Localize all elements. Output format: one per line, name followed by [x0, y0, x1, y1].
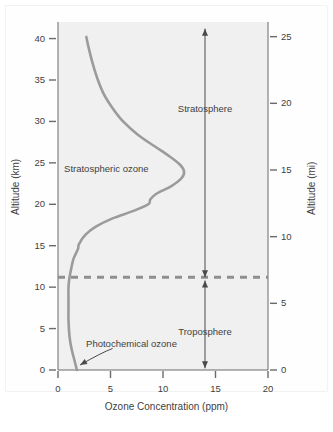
pointer-arrow-group [80, 348, 113, 365]
left-tick-label: 5 [0, 324, 45, 334]
photochemical-ozone-label: Photochemical ozone [86, 340, 177, 350]
bottom-tick-label: 20 [263, 384, 274, 394]
stratosphere-extent-arrow-head [202, 29, 208, 36]
right-tick-label: 20 [281, 99, 292, 109]
stratosphere-label: Stratosphere [178, 104, 232, 114]
bottom-tick-label: 0 [55, 384, 60, 394]
x-axis-title: Ozone Concentration (ppm) [0, 402, 333, 412]
left-axis-title: Altitude (km) [11, 175, 21, 215]
left-tick-label: 30 [0, 117, 45, 127]
ozone-profile-figure: 0510152025303540051015202505101520 Strat… [0, 0, 333, 432]
right-tick-label: 5 [281, 299, 286, 309]
left-tick-label: 10 [0, 282, 45, 292]
bottom-tick-label: 10 [158, 384, 169, 394]
right-tick-label: 0 [281, 365, 286, 375]
troposphere-extent-arrow-head [202, 361, 208, 368]
left-tick-label: 20 [0, 200, 45, 210]
photochemical-ozone-pointer-head [80, 359, 87, 365]
left-axis-ticks [49, 39, 56, 370]
troposphere-label: Troposphere [178, 327, 232, 337]
left-tick-label: 35 [0, 75, 45, 85]
right-tick-label: 15 [281, 165, 292, 175]
left-tick-label: 25 [0, 158, 45, 168]
right-axis-title: Altitude (mi) [307, 175, 317, 215]
layer-extent-arrows [202, 29, 208, 369]
troposphere-extent-arrow-head [202, 281, 208, 288]
bottom-tick-label: 15 [210, 384, 221, 394]
stratospheric-ozone-label: Stratospheric ozone [64, 165, 149, 175]
right-tick-label: 25 [281, 32, 292, 42]
ozone-concentration-curve [68, 37, 184, 370]
right-tick-label: 10 [281, 232, 292, 242]
left-tick-label: 40 [0, 34, 45, 44]
bottom-axis-ticks [58, 371, 268, 378]
bottom-tick-label: 5 [108, 384, 113, 394]
right-axis-ticks [270, 37, 277, 370]
left-tick-label: 0 [0, 365, 45, 375]
left-tick-label: 15 [0, 241, 45, 251]
